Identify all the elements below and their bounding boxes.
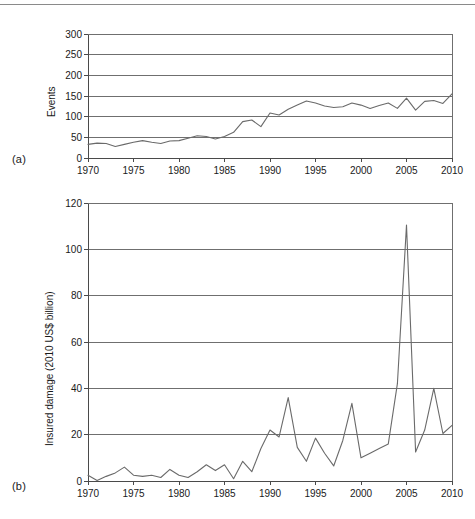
x-axis-tick-label: 1970: [77, 488, 100, 499]
panel-b-plot: 0204060801001201970197519801985199019952…: [0, 196, 475, 519]
y-axis-tick-label: 250: [65, 49, 82, 60]
x-axis-tick-label: 1980: [168, 488, 191, 499]
y-axis-tick-label: 40: [71, 383, 83, 394]
x-axis-tick-label: 2005: [395, 165, 418, 176]
x-axis-tick-label: 1995: [304, 488, 327, 499]
y-axis-tick-label: 80: [71, 290, 83, 301]
y-axis-tick-label: 100: [65, 111, 82, 122]
chart-panel-a: (a) Events 05010015020025030019701975198…: [0, 12, 475, 192]
x-axis-tick-label: 1990: [259, 488, 282, 499]
panel-a-plot: 0501001502002503001970197519801985199019…: [0, 12, 475, 192]
y-axis-tick-label: 120: [65, 198, 82, 209]
x-axis-tick-label: 1985: [213, 165, 236, 176]
y-axis-tick-label: 0: [76, 476, 82, 487]
y-axis-tick-label: 60: [71, 337, 83, 348]
y-axis-tick-label: 50: [71, 132, 83, 143]
x-axis-tick-label: 2000: [350, 488, 373, 499]
x-axis-tick-label: 1975: [122, 488, 145, 499]
y-axis-tick-label: 150: [65, 91, 82, 102]
x-axis-tick-label: 2010: [441, 165, 464, 176]
x-axis-tick-label: 2005: [395, 488, 418, 499]
x-axis-tick-label: 1975: [122, 165, 145, 176]
y-axis-tick-label: 200: [65, 70, 82, 81]
x-axis-tick-label: 2000: [350, 165, 373, 176]
y-axis-tick-label: 300: [65, 29, 82, 40]
x-axis-tick-label: 1995: [304, 165, 327, 176]
y-axis-tick-label: 0: [76, 153, 82, 164]
x-axis-tick-label: 1980: [168, 165, 191, 176]
x-axis-tick-label: 2010: [441, 488, 464, 499]
page-top-rule: [0, 4, 475, 5]
data-series-line: [88, 225, 452, 481]
data-series-line: [88, 94, 452, 146]
chart-panel-b: (b) Insured damage (2010 US$ billion) 02…: [0, 196, 475, 519]
x-axis-tick-label: 1990: [259, 165, 282, 176]
x-axis-tick-label: 1970: [77, 165, 100, 176]
y-axis-tick-label: 20: [71, 429, 83, 440]
y-axis-tick-label: 100: [65, 244, 82, 255]
x-axis-tick-label: 1985: [213, 488, 236, 499]
